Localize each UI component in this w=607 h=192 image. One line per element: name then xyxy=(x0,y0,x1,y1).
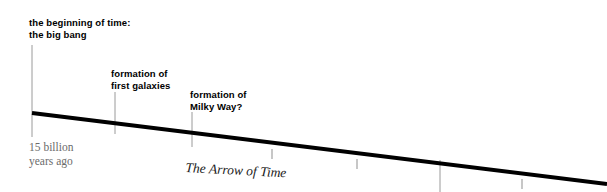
axis-start-label: 15 billion years ago xyxy=(29,140,73,168)
event-label-first-galaxies-line1: formation of xyxy=(111,68,168,79)
event-label-big-bang: the beginning of time: the big bang xyxy=(29,17,130,40)
event-label-first-galaxies: formation of first galaxies xyxy=(111,68,171,91)
event-label-first-galaxies-line2: first galaxies xyxy=(111,80,171,92)
event-label-milky-way-line2: Milky Way? xyxy=(190,101,247,113)
event-label-big-bang-line2: the big bang xyxy=(29,29,130,41)
axis-start-label-line2: years ago xyxy=(29,154,73,168)
timeline-diagram: the beginning of time: the big bang form… xyxy=(0,0,607,192)
arrow-of-time-line xyxy=(32,113,607,184)
axis-start-label-line1: 15 billion xyxy=(29,141,73,153)
event-label-big-bang-line1: the beginning of time: xyxy=(29,17,130,28)
event-label-milky-way: formation of Milky Way? xyxy=(190,89,247,112)
event-label-milky-way-line1: formation of xyxy=(190,89,247,100)
